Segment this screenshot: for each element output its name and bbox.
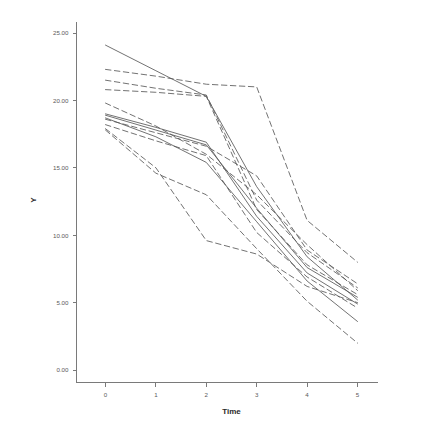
x-tick-label: 0: [104, 391, 108, 398]
series-line-subject-9: [106, 119, 358, 283]
x-tick-label: 3: [255, 391, 259, 398]
series-line-subject-7: [106, 115, 358, 297]
x-tick-label: 4: [305, 391, 309, 398]
series-line-subject-2: [106, 69, 358, 262]
y-tick-label: 0.00: [56, 366, 69, 373]
x-axis-title: Time: [222, 407, 241, 416]
chart-figure: 0.005.0010.0015.0020.0025.00 012345 Y Ti…: [0, 0, 426, 437]
y-tick-label: 15.00: [53, 164, 69, 171]
series-line-subject-11: [106, 129, 358, 303]
x-axis-ticks: 012345: [104, 383, 360, 398]
x-tick-label: 5: [356, 391, 360, 398]
series-line-subject-12: [106, 130, 358, 343]
series-line-subject-8: [106, 118, 358, 322]
x-tick-label: 2: [205, 391, 209, 398]
series-lines: [106, 45, 358, 343]
y-axis-ticks: 0.005.0010.0015.0020.0025.00: [53, 29, 76, 373]
line-chart-canvas: 0.005.0010.0015.0020.0025.00 012345 Y Ti…: [0, 0, 426, 437]
y-tick-label: 25.00: [53, 29, 69, 36]
axes: [77, 22, 379, 383]
y-axis-title: Y: [29, 197, 38, 203]
x-tick-label: 1: [154, 391, 158, 398]
y-tick-label: 20.00: [53, 97, 69, 104]
series-line-subject-5: [106, 103, 358, 290]
y-tick-label: 10.00: [53, 232, 69, 239]
y-tick-label: 5.00: [56, 299, 69, 306]
